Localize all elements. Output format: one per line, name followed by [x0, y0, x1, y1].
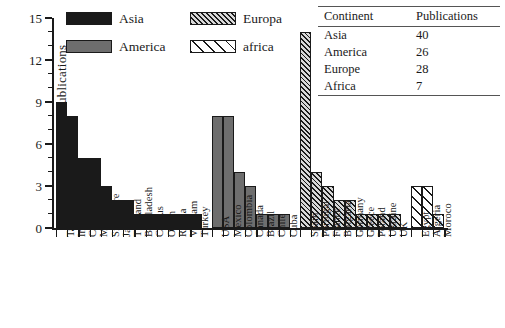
x-axis-label-uk: UK	[399, 222, 410, 237]
x-axis-label-greece: Greece	[366, 207, 377, 237]
x-axis-label-vietnam: Vietnam	[189, 201, 200, 237]
table-row: America26	[318, 44, 500, 61]
y-axis-minor-tick	[48, 213, 52, 214]
y-axis-major-tick	[45, 143, 52, 144]
y-axis-minor-tick	[48, 199, 52, 200]
table-cell-publications: 26	[410, 44, 500, 61]
legend-label-africa: africa	[243, 38, 274, 55]
x-axis-label-taiwan: Taiwan	[66, 206, 77, 237]
x-axis-label-turkey: Turkey	[200, 206, 211, 237]
x-axis-label-cyprus: Cyprus	[155, 206, 166, 237]
publications-by-country-bar-chart: Publications 03691215 TaiwanIndiaChinaMa…	[0, 0, 505, 328]
x-axis-label-thailand: Thailand	[133, 199, 144, 237]
table-header-row: Continent Publications	[318, 7, 500, 27]
y-axis-tick-label: 6	[16, 138, 42, 151]
x-axis-label-mexico: Mexico	[233, 204, 244, 237]
legend-label-america: America	[119, 38, 165, 55]
y-axis-major-tick	[45, 59, 52, 60]
table-cell-continent: America	[318, 44, 410, 61]
table-header-publications: Publications	[410, 7, 500, 27]
x-axis-label-bulgaria: Bulgaria	[343, 200, 354, 237]
x-axis-label-india: India	[77, 215, 88, 237]
table-cell-publications: 7	[410, 78, 500, 96]
chart-legend: AsiaAmericaEuropaafrica	[66, 10, 281, 62]
y-axis-minor-tick	[48, 31, 52, 32]
legend-label-asia: Asia	[119, 10, 144, 27]
table-cell-publications: 40	[410, 26, 500, 44]
x-axis-label-egypt: Egypt	[421, 211, 432, 237]
table-row: Asia40	[318, 26, 500, 44]
x-axis-label-moroco: Moroco	[443, 203, 454, 237]
x-axis-label-canada: Canada	[255, 205, 266, 237]
y-axis-minor-tick	[48, 115, 52, 116]
y-axis-minor-tick	[48, 129, 52, 130]
x-axis-tick	[300, 230, 301, 237]
x-axis-label-japan: Japan	[122, 213, 133, 237]
y-axis-major-tick	[45, 17, 52, 18]
legend-swatch-america	[66, 40, 112, 53]
y-axis-tick-label: 12	[16, 54, 42, 67]
legend-swatch-asia	[66, 12, 112, 25]
table-row: Africa7	[318, 78, 500, 96]
table-row: Europe28	[318, 61, 500, 78]
y-axis-tick-label: 0	[16, 222, 42, 235]
x-axis-tick	[56, 230, 57, 237]
x-axis-label-usa: USA	[221, 216, 232, 237]
x-axis-label-algeria: Algeria	[432, 205, 443, 237]
legend-label-europa: Europa	[243, 10, 282, 27]
y-axis-major-tick	[45, 227, 52, 228]
y-axis-minor-tick	[48, 45, 52, 46]
x-axis-label-russia: Russia	[178, 208, 189, 237]
x-axis-label-oman: Oman	[167, 211, 178, 237]
x-axis-label-malaysia: Malaysia	[99, 198, 110, 237]
y-axis-tick-label: 3	[16, 180, 42, 193]
x-axis-label-portugal: Portugal	[321, 201, 332, 237]
table-cell-continent: Asia	[318, 26, 410, 44]
y-axis-minor-tick	[48, 87, 52, 88]
y-axis-tick-label: 9	[16, 96, 42, 109]
bar-usa	[212, 116, 223, 228]
x-axis-label-cuba: Cuba	[289, 214, 300, 237]
x-axis-label-germany: Germany	[355, 197, 366, 237]
y-axis-major-tick	[45, 185, 52, 186]
table-header-continent: Continent	[318, 7, 410, 27]
legend-swatch-europa	[190, 12, 236, 25]
x-axis-label-singapore: Singapore	[111, 194, 122, 237]
y-axis-major-tick	[45, 101, 52, 102]
x-axis-label-poland: Poland	[377, 207, 388, 237]
y-axis-minor-tick	[48, 171, 52, 172]
y-axis-line	[52, 18, 54, 229]
y-axis-minor-tick	[48, 157, 52, 158]
x-axis-tick	[212, 230, 213, 237]
table-cell-continent: Africa	[318, 78, 410, 96]
y-axis-minor-tick	[48, 73, 52, 74]
x-axis-tick	[411, 230, 412, 237]
x-axis-label-colombia: Colombia	[244, 195, 255, 237]
x-axis-label-spain: Spain	[310, 213, 321, 237]
y-axis-tick-label: 15	[16, 12, 42, 25]
bar-spain	[300, 32, 311, 228]
x-axis-label-chile: Chile	[277, 214, 288, 237]
table-cell-continent: Europe	[318, 61, 410, 78]
table-cell-publications: 28	[410, 61, 500, 78]
legend-swatch-africa	[190, 40, 236, 53]
continent-publications-table: Continent Publications Asia40America26Eu…	[318, 6, 500, 96]
